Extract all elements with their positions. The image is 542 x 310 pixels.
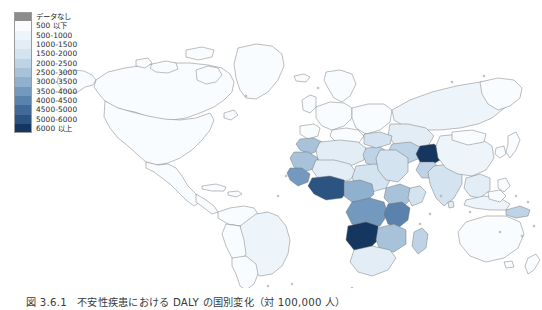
country-iceland [294,74,310,82]
island-sri-lanka [448,201,454,208]
country-korea [495,146,506,158]
legend-item[interactable]: 3000-3500 [14,77,106,86]
legend-label: 2500-3000 [36,68,77,77]
region-scandinavia [324,70,356,102]
island-madagascar [412,228,428,254]
legend-item[interactable]: 500 以下 [14,21,106,30]
legend-label: 500-1000 [36,31,72,40]
island-dot [429,213,431,215]
region-western-europe [316,102,352,130]
legend-swatch-4500-5000 [14,105,32,114]
legend-item[interactable]: 3500-4000 [14,87,106,96]
legend-swatch-4000-4500 [14,96,32,105]
region-central-america [196,194,218,214]
island-dot [533,225,535,227]
legend-label: 2000-2500 [36,59,77,68]
legend-label: 4500-5000 [36,105,77,114]
legend-swatch-1500-2000 [14,49,32,58]
legend-item[interactable]: 6000 以上 [14,124,106,133]
region-oceania [458,206,540,274]
legend-label: データなし [36,12,72,21]
island-dot [285,175,287,177]
legend-swatch-6000-plus [14,124,32,133]
island-dot [469,211,471,213]
island-dot [499,231,501,233]
figure-root: データなし 500 以下 500-1000 1000-1500 1500-200… [0,0,542,310]
legend-label: 5000-6000 [36,115,77,124]
legend-swatch-3500-4000 [14,87,32,96]
island-dot [440,195,442,197]
legend-item[interactable]: データなし [14,12,106,21]
legend-item[interactable]: 1500-2000 [14,49,106,58]
figure-caption: 図 3.6.1 不安性疾患における DALY の国別変化（対 100,000 人… [0,296,542,310]
island-dot [451,81,453,83]
country-greenland [234,44,284,99]
island-dot [267,285,269,287]
legend-swatch-5000-6000 [14,115,32,124]
map-legend: データなし 500 以下 500-1000 1000-1500 1500-200… [14,12,106,146]
legend-swatch-500-1000 [14,31,32,40]
legend-swatch-0-500 [14,21,32,30]
legend-item[interactable]: 2000-2500 [14,59,106,68]
island-dot [483,75,485,77]
country-japan [506,132,520,158]
region-south-america [218,206,290,288]
legend-label: 1000-1500 [36,40,77,49]
country-turkey [364,132,392,148]
legend-item[interactable]: 4000-4500 [14,96,106,105]
country-angola [346,222,378,250]
legend-swatch-2000-2500 [14,59,32,68]
region-eastern-europe [352,104,392,134]
figure-caption-text: 図 3.6.1 不安性疾患における DALY の国別変化（対 100,000 人… [26,296,346,310]
island-dot [521,235,523,237]
island-cuba [202,184,226,191]
legend-label: 1500-2000 [36,49,77,58]
country-somalia [408,186,426,206]
island-dot [515,195,517,197]
legend-label: 6000 以上 [36,124,72,133]
island-dot [245,95,247,97]
island-dot [317,87,319,89]
legend-item[interactable]: 4500-5000 [14,105,106,114]
country-uk-ireland [302,95,316,113]
legend-item[interactable]: 500-1000 [14,31,106,40]
island-tasmania [504,261,514,268]
legend-item[interactable]: 5000-6000 [14,115,106,124]
country-nigeria [308,176,348,200]
legend-label: 3000-3500 [36,77,77,86]
country-south-africa [350,246,396,276]
legend-swatch-3000-3500 [14,77,32,86]
island-ellesmere [186,47,214,60]
legend-label: 3500-4000 [36,87,77,96]
legend-item[interactable]: 1000-1500 [14,40,106,49]
region-iberia [300,124,320,139]
island-dot [291,283,293,285]
country-new-zealand [525,254,540,274]
country-png [506,206,530,218]
legend-label: 4000-4500 [36,96,77,105]
island-dot [527,201,529,203]
legend-swatch-1000-1500 [14,40,32,49]
legend-label: 500 以下 [36,21,67,30]
region-southeast-asia [464,174,490,198]
island-dot [351,287,353,288]
country-kenya-tanzania [384,202,410,228]
legend-item[interactable]: 2500-3000 [14,68,106,77]
island-hispaniola [228,191,242,197]
legend-swatch-no-data [14,12,32,21]
country-mexico [146,162,200,206]
island-newfoundland [224,110,238,120]
legend-swatch-2500-3000 [14,68,32,77]
country-australia [458,216,524,262]
island-dot [277,195,279,197]
island-dot [419,223,421,225]
